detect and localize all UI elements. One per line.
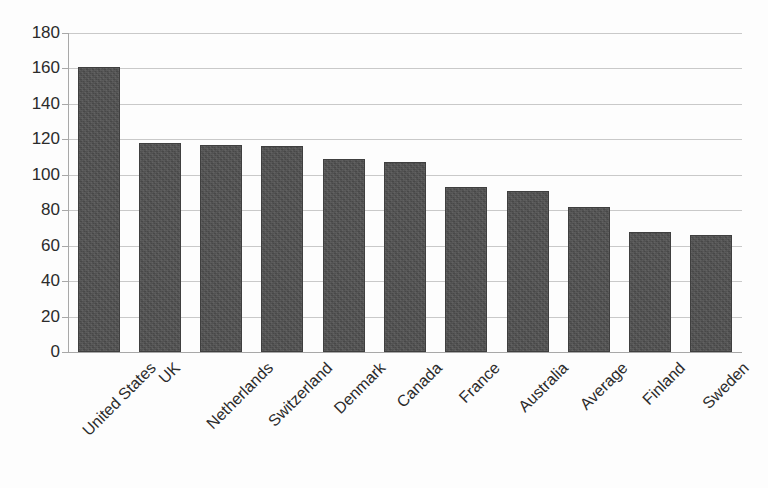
bar-slot (129, 33, 190, 352)
x-label-slot: United States (68, 353, 129, 488)
bar (261, 146, 303, 352)
y-tick-40 (62, 281, 68, 282)
y-axis-label-40: 40 (14, 272, 60, 289)
bar-slot (374, 33, 435, 352)
bar-slot (558, 33, 619, 352)
y-tick-100 (62, 175, 68, 176)
x-label-slot: Canada (374, 353, 435, 488)
y-axis-label-120: 120 (14, 130, 60, 147)
bars-layer (68, 33, 742, 352)
x-axis-label-sweden: Sweden (699, 359, 752, 412)
y-tick-60 (62, 246, 68, 247)
x-label-slot: Denmark (313, 353, 374, 488)
y-axis-label-80: 80 (14, 201, 60, 218)
x-label-slot: Netherlands (191, 353, 252, 488)
y-tick-140 (62, 104, 68, 105)
bar-slot (252, 33, 313, 352)
x-axis-category-labels: United StatesUKNetherlandsSwitzerlandDen… (68, 353, 742, 488)
bar (629, 232, 671, 353)
y-axis-tick-labels: 180160140120100806040200 (8, 0, 60, 488)
y-axis-label-60: 60 (14, 237, 60, 254)
y-tick-0 (62, 352, 68, 353)
bar (568, 207, 610, 352)
bar (507, 191, 549, 352)
x-axis-label-uk: UK (155, 359, 183, 387)
x-label-slot: UK (129, 353, 190, 488)
y-axis-label-140: 140 (14, 95, 60, 112)
y-axis-label-180: 180 (14, 24, 60, 41)
y-tick-20 (62, 317, 68, 318)
bar (323, 159, 365, 352)
y-axis-label-160: 160 (14, 59, 60, 76)
x-label-slot: Switzerland (252, 353, 313, 488)
bar (78, 67, 120, 352)
y-axis-label-0: 0 (14, 343, 60, 360)
x-label-slot: Finland (619, 353, 680, 488)
y-tick-180 (62, 33, 68, 34)
bar (139, 143, 181, 352)
y-axis-label-20: 20 (14, 308, 60, 325)
bar (200, 145, 242, 352)
x-label-slot: Australia (497, 353, 558, 488)
bar-chart: 180160140120100806040200 United StatesUK… (0, 0, 768, 488)
x-label-slot: Average (558, 353, 619, 488)
bar-slot (619, 33, 680, 352)
y-tick-120 (62, 139, 68, 140)
bar-slot (68, 33, 129, 352)
bar-slot (436, 33, 497, 352)
y-tick-80 (62, 210, 68, 211)
bar-slot (191, 33, 252, 352)
y-axis-label-100: 100 (14, 166, 60, 183)
x-label-slot: Sweden (681, 353, 742, 488)
x-label-slot: France (436, 353, 497, 488)
bar-slot (497, 33, 558, 352)
bar-slot (313, 33, 374, 352)
bar (445, 187, 487, 352)
bar-slot (681, 33, 742, 352)
bar (384, 162, 426, 352)
y-tick-160 (62, 68, 68, 69)
bar (690, 235, 732, 352)
